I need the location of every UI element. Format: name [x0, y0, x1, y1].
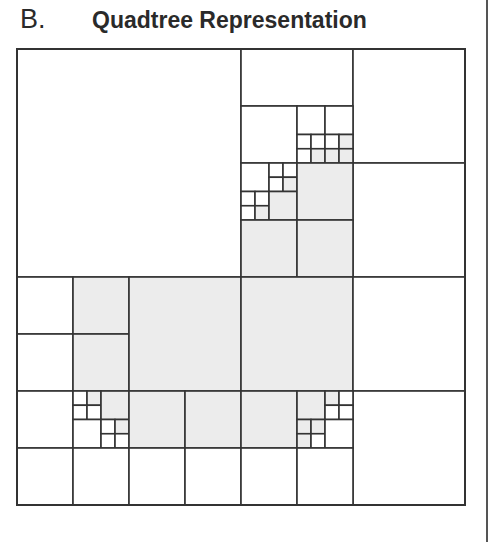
quadtree-cell-empty [129, 448, 185, 505]
quadtree-cell-filled [339, 135, 353, 149]
quadtree-cell-filled [241, 277, 353, 391]
quadtree-cell-empty [241, 106, 297, 163]
quadtree-cell-filled [297, 420, 311, 434]
quadtree-cell-filled [241, 220, 297, 277]
quadtree-cell-empty [269, 177, 283, 191]
quadtree-cell-filled [241, 391, 297, 448]
quadtree-cell-empty [339, 405, 353, 419]
quadtree-cell-empty [297, 106, 325, 135]
quadtree-cell-empty [73, 448, 129, 505]
quadtree-cell-filled [73, 277, 129, 334]
quadtree-cell-filled [255, 206, 269, 220]
quadtree-cell-filled [339, 149, 353, 163]
quadtree-cell-filled [269, 192, 297, 221]
quadtree-cell-empty [339, 391, 353, 405]
quadtree-cell-empty [241, 163, 269, 192]
quadtree-diagram [0, 0, 490, 542]
quadtree-cell-empty [101, 434, 115, 448]
quadtree-cell-empty [241, 206, 255, 220]
quadtree-cell-filled [325, 149, 339, 163]
quadtree-cell-empty [73, 420, 101, 449]
quadtree-cell-filled [297, 163, 353, 220]
quadtree-cell-filled [297, 220, 353, 277]
quadtree-cell-filled [129, 391, 185, 448]
quadtree-cell-empty [17, 448, 73, 505]
quadtree-cell-filled [283, 177, 297, 191]
quadtree-cell-empty [325, 405, 339, 419]
quadtree-cell-filled [101, 391, 129, 420]
quadtree-cell-empty [325, 135, 339, 149]
quadtree-cell-empty [255, 192, 269, 206]
quadtree-cell-empty [241, 192, 255, 206]
quadtree-cell-empty [17, 277, 73, 334]
quadtree-cell-filled [115, 420, 129, 434]
quadtree-cell-empty [325, 420, 353, 449]
quadtree-cell-filled [311, 149, 325, 163]
quadtree-cell-empty [311, 135, 325, 149]
quadtree-cell-empty [297, 149, 311, 163]
quadtree-cell-empty [311, 434, 325, 448]
quadtree-cell-empty [115, 434, 129, 448]
quadtree-cell-empty [353, 163, 465, 277]
quadtree-cell-filled [129, 277, 241, 391]
quadtree-cell-filled [185, 391, 241, 448]
quadtree-cell-empty [185, 448, 241, 505]
quadtree-cell-filled [311, 420, 325, 434]
quadtree-cell-empty [87, 405, 101, 419]
quadtree-cell-empty [73, 391, 87, 405]
quadtree-cell-filled [73, 334, 129, 391]
quadtree-cell-empty [353, 49, 465, 163]
quadtree-cell-empty [297, 135, 311, 149]
quadtree-cell-empty [283, 163, 297, 177]
quadtree-cell-empty [241, 448, 297, 505]
quadtree-cell-empty [17, 334, 73, 391]
quadtree-cell-empty [353, 277, 465, 391]
quadtree-cell-filled [297, 434, 311, 448]
quadtree-cell-filled [325, 391, 339, 405]
quadtree-cell-filled [87, 391, 101, 405]
quadtree-cell-empty [325, 106, 353, 135]
quadtree-cell-empty [241, 49, 353, 106]
quadtree-cell-filled [297, 391, 325, 420]
quadtree-cell-empty [101, 420, 115, 434]
quadtree-cell-empty [17, 49, 241, 277]
quadtree-cell-empty [17, 391, 73, 448]
quadtree-cell-empty [269, 163, 283, 177]
quadtree-cell-empty [353, 391, 465, 505]
quadtree-cell-empty [297, 448, 353, 505]
quadtree-cell-empty [73, 405, 87, 419]
